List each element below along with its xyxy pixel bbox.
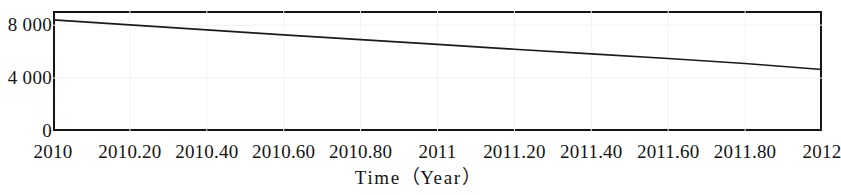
x-axis-tick-label: 2010.60: [252, 141, 315, 162]
line-chart-canvas: [53, 11, 822, 131]
x-axis-tick-label: 2011.20: [483, 141, 545, 162]
gridlines: [53, 11, 822, 131]
x-axis-tick-label: 2011.80: [714, 141, 776, 162]
x-axis-tick-label: 2011.60: [637, 141, 699, 162]
x-axis-title-inner: Year: [420, 167, 461, 188]
x-axis-tick-label: 2012: [803, 141, 841, 162]
x-axis-title-prefix: Time: [355, 167, 401, 188]
x-axis-tick-label: 2010.80: [329, 141, 392, 162]
x-axis-title: Time（Year）: [0, 167, 836, 189]
x-axis-title-close-paren: ）: [462, 167, 482, 188]
y-axis-tick-label: 8 000: [0, 15, 52, 34]
x-axis-tick-label: 2010: [34, 141, 73, 162]
x-axis-tick-label: 2011: [418, 141, 456, 162]
x-axis-tick-label: 2010.40: [175, 141, 238, 162]
x-axis-tick-label: 2010.20: [98, 141, 161, 162]
x-axis-title-open-paren: （: [401, 167, 421, 188]
plot-area: [53, 11, 822, 131]
y-axis-tick-label: 4 000: [0, 68, 52, 87]
x-axis-tick-label: 2011.40: [560, 141, 622, 162]
y-axis-tick-label: 0: [0, 121, 52, 140]
